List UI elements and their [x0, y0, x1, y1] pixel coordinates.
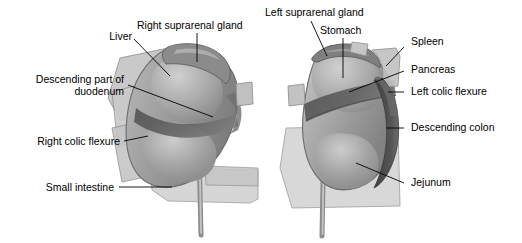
- label-jejunum: Jejunum: [411, 177, 451, 189]
- label-pancreas: Pancreas: [411, 64, 455, 76]
- label-right-suprarenal-gland: Right suprarenal gland: [137, 20, 243, 32]
- left-medial-tab: [288, 84, 305, 106]
- left-kidney-panel: [280, 42, 400, 236]
- label-liver: Liver: [72, 31, 132, 43]
- label-left-suprarenal-gland: Left suprarenal gland: [265, 7, 364, 19]
- label-descending-part-of-duodenum: Descending part of duodenum: [16, 74, 124, 97]
- right-lateral-tab: [236, 82, 253, 106]
- label-left-colic-flexure: Left colic flexure: [411, 86, 487, 98]
- label-stomach: Stomach: [320, 25, 361, 37]
- label-right-colic-flexure: Right colic flexure: [14, 136, 120, 148]
- figure-canvas: Liver Right suprarenal gland Descending …: [0, 0, 522, 243]
- label-small-intestine: Small intestine: [28, 182, 114, 194]
- label-spleen: Spleen: [411, 36, 444, 48]
- duodenum-band: [205, 166, 258, 186]
- label-descending-colon: Descending colon: [411, 122, 494, 134]
